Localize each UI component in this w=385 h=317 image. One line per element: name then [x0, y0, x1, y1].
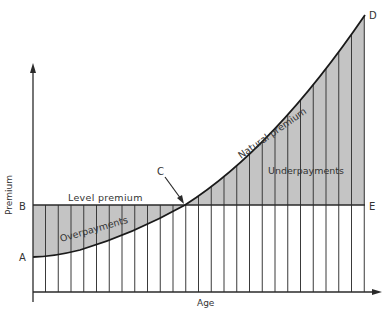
underpayments-label: Underpayments — [268, 165, 344, 176]
x-axis-arrow-icon — [372, 289, 382, 295]
level-premium-label: Level premium — [68, 192, 143, 203]
y-axis-label: Premium — [4, 175, 14, 215]
premium-diagram: B A C D E Level premium Natural premium … — [0, 0, 385, 317]
point-b-label: B — [19, 201, 26, 212]
point-a-label: A — [19, 252, 26, 263]
point-e-label: E — [369, 201, 375, 212]
x-axis-label: Age — [197, 298, 215, 308]
point-c-pointer — [165, 177, 181, 199]
point-c-arrow-icon — [177, 195, 184, 204]
point-d-label: D — [369, 10, 377, 21]
point-c-label: C — [157, 166, 164, 177]
y-axis-arrow-icon — [30, 63, 36, 73]
